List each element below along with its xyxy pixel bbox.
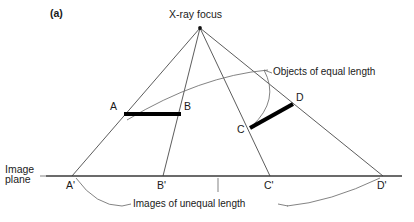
- object-bar-cd: [250, 104, 293, 128]
- annotation-objects-equal-length: Objects of equal length: [273, 66, 375, 77]
- annotation-images-unequal-length: Images of unequal length: [133, 198, 245, 209]
- arc-image-ab-span: [76, 178, 122, 206]
- arc-image-cd-span: [287, 178, 380, 206]
- point-label-a: A: [110, 101, 117, 113]
- figure-container: (a) X-ray focus A B C D A' B' C' D' Imag…: [0, 0, 414, 222]
- point-label-d: D: [296, 92, 304, 104]
- panel-label: (a): [50, 8, 63, 20]
- point-label-d-prime: D': [377, 180, 387, 192]
- diagram-canvas: [0, 0, 414, 222]
- ray-focus-to-b-prime: [163, 28, 200, 176]
- image-plane-label-line2: plane: [5, 174, 31, 186]
- point-label-b: B: [184, 101, 191, 113]
- point-label-c-prime: C': [264, 180, 274, 192]
- ray-focus-to-d-prime: [200, 28, 383, 176]
- leader-images-right: [278, 204, 288, 206]
- focus-label: X-ray focus: [169, 9, 222, 21]
- ray-focus-to-c-prime: [200, 28, 270, 176]
- leader-images-left: [122, 204, 131, 206]
- focus-point-dot: [198, 26, 202, 30]
- point-label-b-prime: B': [157, 180, 166, 192]
- point-label-c: C: [237, 124, 245, 136]
- point-label-a-prime: A': [66, 180, 75, 192]
- ray-focus-to-a-prime: [72, 28, 200, 176]
